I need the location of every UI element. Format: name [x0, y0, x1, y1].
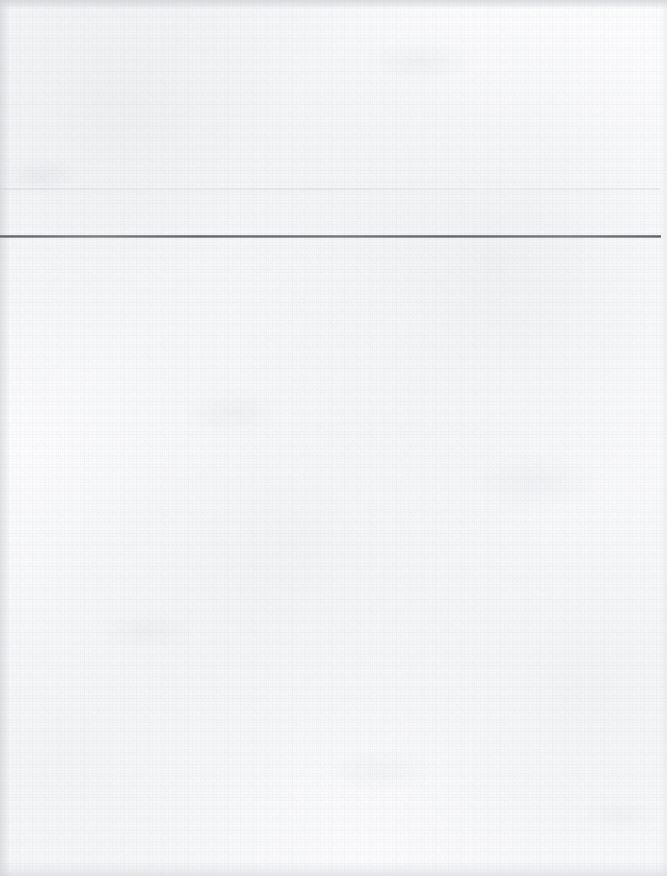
scan-edge-shadow-top — [0, 0, 667, 9]
horizontal-rule — [0, 235, 661, 238]
scan-edge-shadow-right — [660, 0, 667, 876]
faint-bleed-through-rule-icon — [0, 188, 660, 190]
scanned-page — [0, 0, 667, 876]
paper-mottling — [0, 0, 667, 876]
scan-edge-shadow-left — [0, 0, 10, 876]
paper-fiber-texture — [0, 0, 667, 876]
body-region — [0, 238, 667, 876]
paper-grain-texture — [0, 0, 667, 876]
scan-edge-shadow-bottom — [0, 862, 667, 876]
header-region — [0, 0, 667, 235]
